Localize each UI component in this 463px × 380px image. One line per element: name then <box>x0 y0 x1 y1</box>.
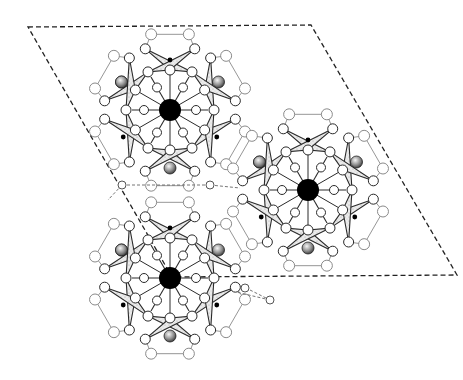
anion-atom <box>140 166 150 176</box>
tetrahedron <box>192 72 235 101</box>
anion-atom <box>153 83 162 92</box>
outer-anion-atom <box>146 348 157 359</box>
tetrahedron <box>330 152 373 181</box>
outer-anion-atom <box>90 294 101 305</box>
anion-atom <box>165 65 175 75</box>
small-atom-dot <box>168 58 173 63</box>
outer-anion-atom <box>221 327 232 338</box>
outer-anion-atom <box>146 197 157 208</box>
outer-anion-atom <box>108 159 119 170</box>
anion-atom <box>230 114 240 124</box>
anion-atom <box>206 157 216 167</box>
cluster-right <box>228 109 389 271</box>
anion-atom <box>200 253 210 263</box>
anion-atom <box>153 296 162 305</box>
anion-atom <box>179 296 188 305</box>
cluster-top-left <box>90 29 251 191</box>
small-atom-dot <box>306 138 311 143</box>
anion-atom <box>121 105 131 115</box>
outer-anion-atom <box>146 29 157 40</box>
anion-atom <box>206 325 216 335</box>
anion-atom <box>368 176 378 186</box>
small-atom-dot <box>214 135 219 140</box>
outer-anion-atom <box>90 251 101 262</box>
outer-anion-atom <box>239 251 250 262</box>
hatched-atom <box>212 244 224 256</box>
outer-anion-atom <box>228 163 239 174</box>
anion-atom <box>317 208 326 217</box>
small-atom-dot <box>259 215 264 220</box>
anion-atom <box>165 313 175 323</box>
anion-atom <box>238 194 248 204</box>
anion-atom <box>165 233 175 243</box>
tetrahedron <box>243 199 286 228</box>
central-atom <box>297 179 319 201</box>
anion-atom <box>209 273 219 283</box>
cluster-layer <box>90 29 389 359</box>
anion-atom <box>143 143 153 153</box>
hatched-atom <box>254 156 266 168</box>
tetrahedron <box>192 119 235 148</box>
outer-anion-atom <box>359 239 370 250</box>
linking-atom <box>206 181 214 189</box>
anion-atom <box>190 44 200 54</box>
anion-atom <box>153 128 162 137</box>
anion-atom <box>121 273 131 283</box>
anion-atom <box>143 67 153 77</box>
anion-atom <box>328 124 338 134</box>
anion-atom <box>281 147 291 157</box>
unit-cell-outline <box>28 25 457 277</box>
outer-anion-atom <box>284 109 295 120</box>
tetrahedron <box>192 287 235 316</box>
anion-atom <box>328 246 338 256</box>
anion-atom <box>200 125 210 135</box>
outer-anion-atom <box>246 239 257 250</box>
anion-atom <box>317 163 326 172</box>
crystal-structure-drawing <box>0 0 463 380</box>
anion-atom <box>143 311 153 321</box>
anion-atom <box>230 282 240 292</box>
anion-atom <box>192 106 201 115</box>
anion-atom <box>230 96 240 106</box>
unit-cell-dashed-border <box>28 25 457 277</box>
anion-atom <box>100 282 110 292</box>
tetrahedron <box>192 240 235 269</box>
hatched-atom <box>164 330 176 342</box>
small-atom-dot <box>121 303 126 308</box>
anion-atom <box>291 208 300 217</box>
outer-anion-atom <box>183 180 194 191</box>
anion-atom <box>330 186 339 195</box>
hatched-atom <box>116 76 128 88</box>
anion-atom <box>124 157 134 167</box>
tetrahedron <box>243 152 286 181</box>
anion-atom <box>130 293 140 303</box>
outer-anion-atom <box>359 130 370 141</box>
anion-atom <box>187 143 197 153</box>
outer-anion-atom <box>183 29 194 40</box>
anion-atom <box>259 185 269 195</box>
outer-anion-atom <box>246 130 257 141</box>
hatched-atom <box>116 244 128 256</box>
anion-atom <box>325 147 335 157</box>
tetrahedron <box>105 72 148 101</box>
anion-atom <box>179 128 188 137</box>
anion-atom <box>209 105 219 115</box>
anion-atom <box>338 165 348 175</box>
hatched-atom <box>302 242 314 254</box>
anion-atom <box>338 205 348 215</box>
anion-atom <box>347 185 357 195</box>
hatched-atom <box>212 76 224 88</box>
anion-atom <box>344 133 354 143</box>
outer-anion-atom <box>321 109 332 120</box>
central-atom <box>159 99 181 121</box>
anion-atom <box>153 251 162 260</box>
anion-atom <box>200 293 210 303</box>
anion-atom <box>100 264 110 274</box>
anion-atom <box>190 212 200 222</box>
anion-atom <box>190 166 200 176</box>
tetrahedron <box>205 110 214 162</box>
hatched-atom <box>164 162 176 174</box>
anion-atom <box>206 221 216 231</box>
anion-atom <box>124 325 134 335</box>
outer-anion-atom <box>284 260 295 271</box>
